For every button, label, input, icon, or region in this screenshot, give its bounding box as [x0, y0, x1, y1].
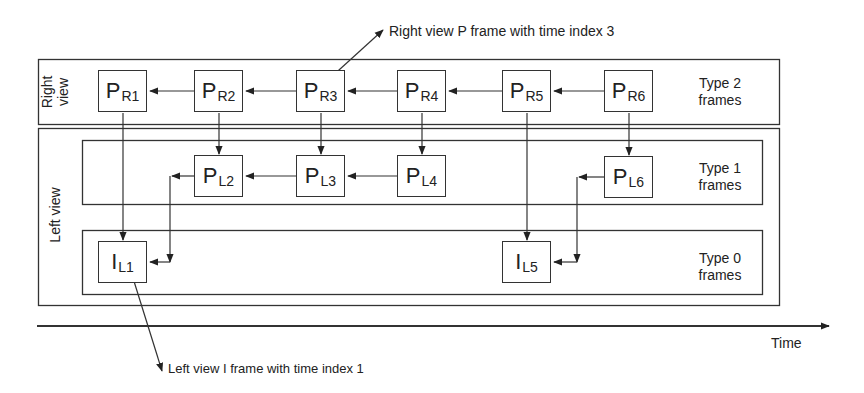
- right-view-label: Right view: [39, 67, 71, 117]
- frame-index: R2: [217, 88, 235, 104]
- frame-type: P: [304, 78, 319, 104]
- type1-label-line1: Type 1: [690, 160, 750, 177]
- frame-index: R1: [121, 88, 139, 104]
- frame-type: P: [305, 163, 320, 189]
- type0-label: Type 0 frames: [690, 250, 750, 284]
- frame-index: L2: [219, 173, 235, 189]
- frame-PL3: PL3: [296, 155, 345, 197]
- frame-index: R4: [420, 88, 438, 104]
- frame-type: P: [106, 78, 121, 104]
- type1-label: Type 1 frames: [690, 160, 750, 194]
- frame-type: P: [203, 163, 218, 189]
- frame-PR4: PR4: [397, 70, 446, 112]
- frame-IL1: IL1: [98, 241, 147, 283]
- frame-PL4: PL4: [397, 155, 446, 197]
- right-view-label-line1: Right: [39, 67, 55, 117]
- frame-index: R3: [319, 88, 337, 104]
- type0-box: [83, 231, 763, 295]
- frame-PR3: PR3: [296, 70, 345, 112]
- frame-type: P: [405, 78, 420, 104]
- frame-PL6: PL6: [604, 156, 653, 198]
- frame-index: L5: [522, 259, 538, 275]
- frame-PR1: PR1: [98, 70, 147, 112]
- frame-type: P: [510, 78, 525, 104]
- frame-IL5: IL5: [502, 241, 551, 283]
- type1-label-line2: frames: [690, 177, 750, 194]
- frame-index: L3: [321, 173, 337, 189]
- type2-label: Type 2 frames: [690, 75, 750, 109]
- frame-index: L6: [629, 174, 645, 190]
- time-axis-label: Time: [771, 335, 802, 351]
- type2-label-line2: frames: [690, 92, 750, 109]
- top-annotation: Right view P frame with time index 3: [389, 23, 614, 39]
- frame-index: R5: [525, 88, 543, 104]
- frame-index: R6: [627, 88, 645, 104]
- bottom-annotation: Left view I frame with time index 1: [168, 361, 364, 376]
- frame-PR5: PR5: [502, 70, 551, 112]
- frame-index: L1: [118, 259, 134, 275]
- frame-PR2: PR2: [194, 70, 243, 112]
- type0-label-line1: Type 0: [690, 250, 750, 267]
- type0-label-line2: frames: [690, 267, 750, 284]
- frame-index: L4: [422, 173, 438, 189]
- frame-type: P: [613, 164, 628, 190]
- frame-PR6: PR6: [604, 70, 653, 112]
- right-view-label-line2: view: [55, 67, 71, 117]
- frame-type: I: [515, 249, 521, 275]
- frame-type: I: [111, 249, 117, 275]
- frame-type: P: [612, 78, 627, 104]
- frame-type: P: [406, 163, 421, 189]
- type2-label-line1: Type 2: [690, 75, 750, 92]
- left-view-label: Left view: [47, 180, 63, 250]
- frame-PL2: PL2: [194, 155, 243, 197]
- frame-type: P: [202, 78, 217, 104]
- bottom-annotation-leader: [133, 278, 162, 371]
